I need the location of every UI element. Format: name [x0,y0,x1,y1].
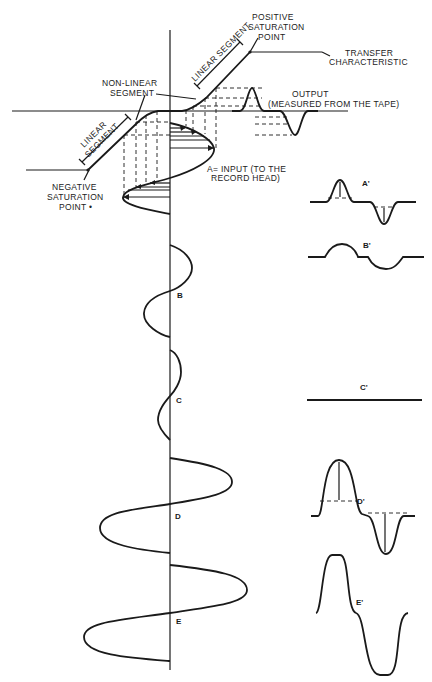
label-linear-segment-lower: LINEAR SEGMENT [76,114,121,159]
svg-text:POINT: POINT [258,32,285,42]
label-input: A= INPUT (TO THE RECORD HEAD) [207,164,286,183]
tag-e-prime: E' [356,598,363,607]
label-non-linear-segment: NON-LINEAR SEGMENT [102,78,157,98]
tag-d: D [175,512,181,521]
tag-b: B [177,291,183,300]
tag-b-prime: B' [363,241,371,250]
output-waveform-d-prime [311,460,415,554]
positive-saturation-pointer [250,38,258,52]
svg-text:SATURATION: SATURATION [248,22,305,32]
non-linear-pointer [156,94,196,99]
svg-text:OUTPUT: OUTPUT [292,89,329,99]
svg-text:(MEASURED FROM THE TAPE): (MEASURED FROM THE TAPE) [268,99,399,109]
input-waveform-a [123,123,214,214]
label-linear-segment-upper: LINEAR SEGMENT [189,20,252,83]
svg-text:POSITIVE: POSITIVE [252,12,294,22]
svg-text:SEGMENT: SEGMENT [110,88,154,98]
transfer-characteristic-diagram: POSITIVE SATURATION POINT TRANSFER CHARA… [0,0,432,682]
output-waveform-e-prime [316,555,408,675]
svg-text:CHARACTERISTIC: CHARACTERISTIC [329,57,408,67]
input-waveform-e [84,565,247,661]
tag-d-prime: D' [357,497,365,506]
input-waveform-b [144,245,192,337]
svg-text:RECORD HEAD): RECORD HEAD) [211,173,280,183]
svg-text:NON-LINEAR: NON-LINEAR [102,78,157,88]
label-negative-saturation: NEGATIVE SATURATION POINT • [47,182,104,212]
label-transfer-characteristic: TRANSFER CHARACTERISTIC [329,48,408,67]
svg-text:NEGATIVE: NEGATIVE [52,182,97,192]
tag-a-prime: A' [362,179,370,188]
tag-c: C [176,396,182,405]
tag-c-prime: C' [360,383,368,392]
svg-text:SATURATION: SATURATION [47,192,104,202]
label-output: OUTPUT (MEASURED FROM THE TAPE) [268,89,399,109]
label-positive-saturation: POSITIVE SATURATION POINT [248,12,305,42]
svg-text:POINT •: POINT • [59,202,92,212]
input-waveform-d [100,458,232,553]
tag-e: E [176,617,182,626]
